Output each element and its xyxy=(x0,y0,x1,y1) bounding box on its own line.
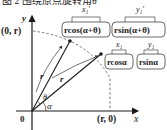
original-x-bracket xyxy=(112,50,126,54)
y-intercept-label: (0, r) xyxy=(1,26,21,37)
alpha-arc xyxy=(43,102,46,111)
rotation-diagram: 图 2 围绕原点旋转角θ y x 0 (0, r) (r, 0) r r α θ… xyxy=(0,0,167,130)
r-arrow-rotated xyxy=(36,46,62,92)
alpha-label: α xyxy=(47,101,52,111)
r-arrow-original xyxy=(52,56,98,78)
original-y-tag: y₁ xyxy=(147,40,155,49)
origin-label: 0 xyxy=(20,114,25,124)
rotated-point xyxy=(68,39,72,43)
theta-label: θ xyxy=(43,93,47,102)
rotated-y-expr: rsin(α+θ) xyxy=(114,25,150,35)
x-axis-label: x xyxy=(133,113,139,124)
radius-original xyxy=(32,54,101,111)
rotated-x-tag: x₁′ xyxy=(81,5,90,14)
rotated-y-bracket xyxy=(125,17,155,22)
theta-arc xyxy=(37,101,40,104)
x-intercept-label: (r, 0) xyxy=(97,114,116,125)
y-axis-label: y xyxy=(21,13,27,23)
original-point xyxy=(99,52,103,56)
radius-label-rotated: r xyxy=(40,71,44,81)
radius-label-original: r xyxy=(60,74,64,84)
original-y-expr: rsinα xyxy=(139,57,158,67)
original-x-tag: x₁ xyxy=(115,40,123,49)
rotated-x-bracket xyxy=(72,17,100,22)
original-x-expr: rcosα xyxy=(107,57,127,67)
original-y-bracket xyxy=(144,50,158,54)
rotated-x-expr: rcos(α+θ) xyxy=(64,25,101,35)
rotated-y-tag: y₁′ xyxy=(135,5,144,14)
